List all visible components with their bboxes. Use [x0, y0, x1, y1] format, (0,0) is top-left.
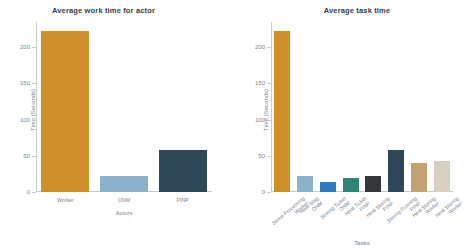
y-tick [32, 192, 36, 193]
y-tick-label: 200 [255, 44, 265, 50]
chart-title-right: Average task time [239, 6, 471, 15]
bar-item[interactable]: ONM [100, 22, 148, 192]
bar[interactable] [411, 163, 427, 192]
bar-group-left: WorkerONMPINP [36, 22, 212, 192]
y-tick [267, 83, 271, 84]
y-tick [267, 156, 271, 157]
bar-item[interactable]: Storing TicketONM [320, 22, 336, 192]
y-axis-label-right: Time (Seconds) [263, 89, 269, 131]
bar[interactable] [434, 161, 450, 192]
x-tick-label: PINP [177, 197, 189, 203]
chart-panel-tasks: Average task time Time (Seconds) Stone P… [235, 0, 471, 249]
bar-item[interactable]: Heat StoringPINP [365, 22, 381, 192]
y-tick-label: 150 [20, 80, 30, 86]
y-tick-label: 100 [255, 117, 265, 123]
y-tick [267, 120, 271, 121]
x-axis-label-right: Tasks [271, 240, 453, 246]
y-tick [32, 83, 36, 84]
bar-item[interactable]: Heat StoringWorker [411, 22, 427, 192]
bar[interactable] [100, 176, 148, 192]
bar-item[interactable]: Heat SlagONM [297, 22, 313, 192]
bar-item[interactable]: Stone ProcessingWorker [274, 22, 290, 192]
x-tick-label: Heat TicketPINP [344, 196, 372, 222]
y-tick [267, 47, 271, 48]
y-tick [32, 47, 36, 48]
x-tick-label: ONM [118, 197, 130, 203]
bar[interactable] [274, 31, 290, 192]
y-tick-label: 50 [23, 153, 30, 159]
bar[interactable] [41, 31, 89, 192]
bar[interactable] [343, 178, 359, 192]
chart-title-left: Average work time for actor [0, 6, 221, 15]
bar-item[interactable]: Heat StoringWorker [434, 22, 450, 192]
bar-group-right: Stone ProcessingWorkerHeat SlagONMStorin… [271, 22, 453, 192]
y-tick-label: 100 [20, 117, 30, 123]
bar[interactable] [320, 182, 336, 192]
y-tick-label: 0 [27, 189, 30, 195]
bar[interactable] [365, 176, 381, 192]
bar[interactable] [297, 176, 313, 192]
bar-item[interactable]: Heat TicketPINP [343, 22, 359, 192]
y-tick-label: 50 [258, 153, 265, 159]
plot-area-right: Time (Seconds) Stone ProcessingWorkerHea… [271, 22, 453, 192]
bar-item[interactable]: Storing RunningPINP [388, 22, 404, 192]
x-axis-label-left: Actors [36, 210, 212, 216]
plot-area-left: Time (Seconds) WorkerONMPINP Actors 0501… [36, 22, 212, 192]
y-tick [267, 192, 271, 193]
bar[interactable] [159, 150, 207, 192]
y-tick-label: 200 [20, 44, 30, 50]
y-tick [32, 120, 36, 121]
x-tick-label: Worker [57, 197, 74, 203]
bar-item[interactable]: Worker [41, 22, 89, 192]
y-tick-label: 0 [262, 189, 265, 195]
bar-item[interactable]: PINP [159, 22, 207, 192]
x-tick-label: Heat StoringWorker [434, 196, 464, 224]
chart-panel-actors: Average work time for actor Time (Second… [0, 0, 235, 249]
y-tick [32, 156, 36, 157]
y-tick-label: 150 [255, 80, 265, 86]
bar[interactable] [388, 150, 404, 192]
figure: Average work time for actor Time (Second… [0, 0, 471, 249]
